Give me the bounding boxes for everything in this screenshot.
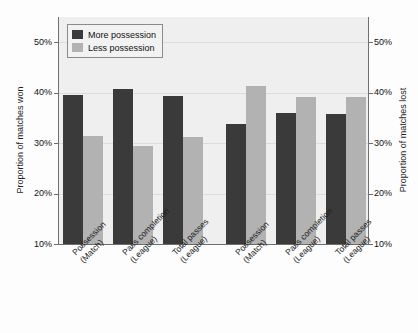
bar-more — [276, 113, 296, 244]
y-tick-mark-left — [54, 143, 58, 144]
legend-label-less: Less possession — [88, 43, 155, 53]
y-tick-mark-left — [54, 42, 58, 43]
y-tick-mark-right — [369, 143, 373, 144]
gridline — [59, 93, 368, 94]
legend-swatch-more — [72, 30, 83, 39]
y-tick-label-left: 30% — [18, 138, 52, 149]
gridline — [59, 143, 368, 144]
x-tick-mark — [345, 244, 346, 248]
chart-legend: More possessionLess possession — [67, 24, 163, 58]
y-tick-mark-right — [369, 194, 373, 195]
x-tick-mark — [82, 244, 83, 248]
y-tick-mark-right — [369, 244, 373, 245]
legend-item-more: More possession — [72, 28, 156, 41]
y-tick-label-right: 50% — [374, 37, 408, 48]
bar-more — [226, 124, 246, 244]
x-tick-mark — [132, 244, 133, 248]
x-tick-mark — [245, 244, 246, 248]
x-axis-category-labels: Possession(Match)Pass completion(League)… — [0, 244, 418, 333]
legend-swatch-less — [72, 43, 83, 52]
y-tick-label-left: 50% — [18, 37, 52, 48]
bar-more — [63, 95, 83, 244]
y-tick-label-left: 40% — [18, 87, 52, 98]
y-tick-label-right: 20% — [374, 188, 408, 199]
legend-item-less: Less possession — [72, 41, 156, 54]
gridline — [59, 194, 368, 195]
y-tick-label-right: 30% — [374, 138, 408, 149]
y-tick-mark-left — [54, 244, 58, 245]
y-tick-mark-left — [54, 93, 58, 94]
legend-label-more: More possession — [88, 30, 156, 40]
bar-more — [113, 89, 133, 244]
x-tick-mark — [182, 244, 183, 248]
y-tick-label-left: 20% — [18, 188, 52, 199]
y-tick-mark-right — [369, 93, 373, 94]
y-tick-label-right: 40% — [374, 87, 408, 98]
y-tick-mark-right — [369, 42, 373, 43]
y-tick-mark-left — [54, 194, 58, 195]
x-tick-mark — [295, 244, 296, 248]
chart-figure: Proportion of matches won Proportion of … — [0, 0, 418, 333]
